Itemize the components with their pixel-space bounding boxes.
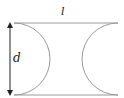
length-label: l [61, 5, 65, 18]
cylinder-diagram: l d [0, 0, 124, 98]
diameter-label: d [13, 51, 21, 65]
right-semicircle-arc [82, 23, 118, 95]
